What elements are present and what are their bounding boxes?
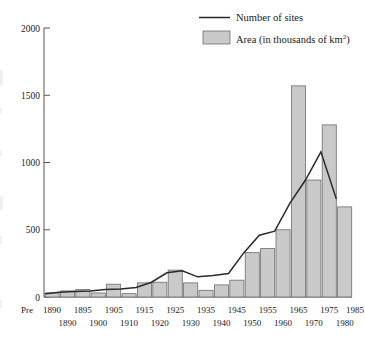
sites-area-chart: 2000 1500 1000 500 0 — [0, 0, 365, 345]
bar-1955 — [261, 249, 275, 297]
x-label-1915: 1915 — [135, 305, 154, 315]
x-label-1955: 1955 — [259, 305, 278, 315]
x-label-1925: 1925 — [166, 305, 185, 315]
x-label-alt-1950: 1950 — [243, 318, 262, 328]
bar-1980 — [338, 207, 352, 297]
bar-1910 — [122, 294, 136, 297]
y-tick-label-1500: 1500 — [21, 91, 40, 101]
x-label-alt-1900: 1900 — [89, 318, 108, 328]
x-label-1985: 1985 — [346, 305, 365, 315]
bar-1920 — [153, 282, 167, 297]
bar-1935 — [199, 290, 213, 297]
x-label-alt-1960: 1960 — [274, 318, 293, 328]
bar-1950 — [245, 253, 259, 297]
x-label-1975: 1975 — [320, 305, 339, 315]
legend-entry-area: Area (in thousands of km2) — [203, 31, 350, 46]
x-label-1945: 1945 — [228, 305, 247, 315]
x-label-alt-1910: 1910 — [120, 318, 139, 328]
x-label-alt-1920: 1920 — [151, 318, 170, 328]
x-label-1905: 1905 — [105, 305, 124, 315]
x-label-alt-1890: 1890 — [58, 318, 77, 328]
chart-container: 2000 1500 1000 500 0 — [0, 0, 365, 345]
bar-1960 — [276, 230, 290, 297]
legend-label-number-of-sites: Number of sites — [236, 12, 303, 23]
x-label-1935: 1935 — [197, 305, 216, 315]
bar-1975 — [322, 125, 336, 297]
y-tick-label-500: 500 — [26, 225, 41, 235]
x-label-alt-1940: 1940 — [212, 318, 231, 328]
legend-label-area: Area (in thousands of km2) — [236, 33, 350, 46]
x-label-1965: 1965 — [289, 305, 308, 315]
bar-1945 — [230, 280, 244, 297]
legend-label-area-main: Area (in thousands of km — [236, 34, 343, 46]
legend-swatch-marker — [203, 31, 230, 44]
y-tick-label-2000: 2000 — [21, 24, 40, 34]
bar-1930 — [184, 283, 198, 297]
y-tick-label-1000: 1000 — [21, 158, 40, 168]
y-tick-label-0: 0 — [35, 293, 40, 303]
legend-label-area-tail: ) — [346, 34, 350, 46]
bar-1905 — [107, 284, 121, 297]
x-label-alt-1970: 1970 — [305, 318, 324, 328]
x-label-pre: Pre — [21, 305, 33, 315]
x-label-alt-1980: 1980 — [336, 318, 355, 328]
bar-1940 — [214, 285, 228, 297]
x-label-alt-1930: 1930 — [182, 318, 201, 328]
x-label-1890: 1890 — [43, 305, 62, 315]
bar-1970 — [307, 180, 321, 297]
x-label-1895: 1895 — [74, 305, 93, 315]
bar-1925 — [168, 270, 182, 297]
bar-1900 — [91, 293, 105, 297]
